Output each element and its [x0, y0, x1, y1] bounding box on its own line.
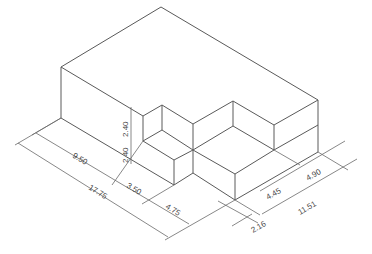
dimension-labels: 9.50 17.75 3.50 4.75 2.40 2.40 4.45 4.90…: [71, 121, 323, 235]
isometric-drawing: 9.50 17.75 3.50 4.75 2.40 2.40 4.45 4.90…: [0, 0, 372, 254]
dim-label-2-16: 2.16: [250, 219, 268, 235]
dim-label-9-50: 9.50: [71, 151, 89, 167]
dim-label-4-75: 4.75: [164, 202, 182, 218]
dim-label-4-45: 4.45: [265, 186, 283, 202]
dim-label-3-50: 3.50: [125, 181, 143, 197]
dim-label-17-75: 17.75: [87, 183, 109, 201]
dim-label-2-40-upper: 2.40: [121, 121, 130, 137]
dim-label-11-51: 11.51: [297, 199, 319, 217]
dim-label-2-40-lower: 2.40: [121, 147, 130, 163]
